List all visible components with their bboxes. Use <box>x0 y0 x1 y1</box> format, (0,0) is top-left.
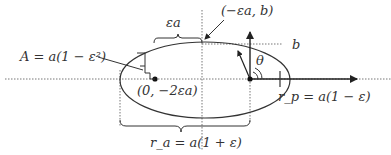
theta-label: θ <box>256 53 264 68</box>
A-equation-label: A = a(1 − ε²) <box>19 49 106 64</box>
center-point-label: (0, −2εa) <box>137 83 198 98</box>
eps-a-label: εa <box>166 15 181 30</box>
ra-equation-label: r_a = a(1 + ε) <box>150 135 242 150</box>
A-bracket <box>137 53 155 79</box>
b-label: b <box>292 37 300 52</box>
radius-vector <box>238 51 250 79</box>
rp-equation-label: r_p = a(1 − ε) <box>278 89 371 104</box>
ra-brace <box>120 120 250 132</box>
focus-point <box>247 76 252 81</box>
ellipse-diagram: εa (−εa, b) b A = a(1 − ε²) θ (0, −2εa) … <box>0 0 391 155</box>
theta-arc-inner <box>253 72 258 79</box>
top-point-label: (−εa, b) <box>221 3 273 18</box>
top-point-leader <box>205 20 224 39</box>
